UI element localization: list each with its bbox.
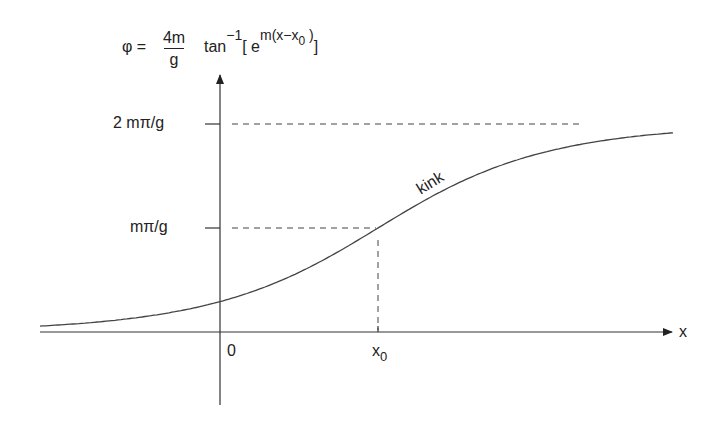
x-axis-label: x: [679, 324, 687, 340]
formula-exp-close: ): [305, 27, 314, 43]
formula-func: tan: [204, 38, 226, 55]
formula-lhs: φ =: [122, 39, 146, 55]
formula-close-bracket: ]: [314, 38, 318, 55]
y-tick-label-2mpi: 2 mπ/g: [113, 115, 164, 131]
x0-label-main: x: [372, 342, 380, 359]
formula-fraction: 4m g: [160, 30, 188, 68]
y-tick-label-mpi: mπ/g: [130, 219, 168, 235]
formula-func-sup: −1: [226, 27, 242, 43]
formula-exp-sub: 0: [299, 34, 306, 48]
formula-numerator: 4m: [160, 30, 188, 48]
kink-diagram: [0, 0, 723, 422]
formula-denominator: g: [160, 49, 188, 68]
x0-label-sub: 0: [380, 349, 387, 364]
formula-arctan: tan−1[ em(x−x0 )]: [204, 39, 318, 55]
formula-open-bracket: [ e: [242, 38, 260, 55]
origin-label: 0: [227, 343, 236, 359]
x0-label: x0: [372, 343, 387, 359]
formula-exp-main: m(x−x: [260, 27, 299, 43]
